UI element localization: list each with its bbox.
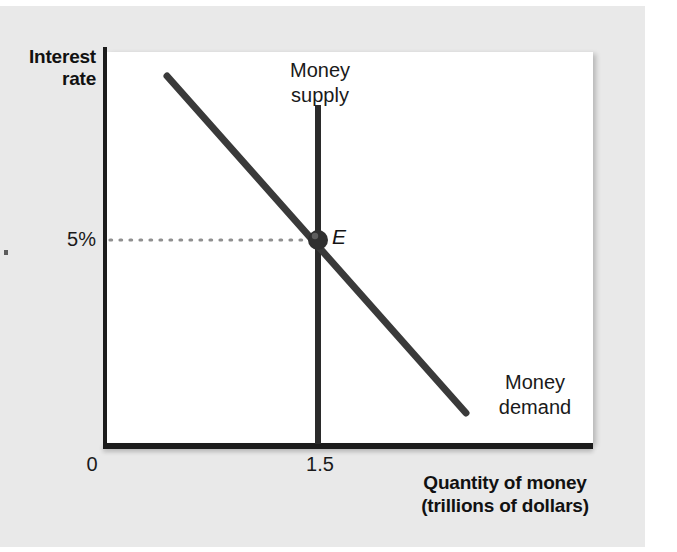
- equilibrium-point-label: E: [332, 225, 346, 249]
- money-demand-label-line1: Money: [470, 370, 600, 395]
- equilibrium-point-highlight: [312, 233, 318, 239]
- money-supply-label-line2: supply: [250, 83, 390, 108]
- money-demand-label: Money demand: [470, 370, 600, 420]
- money-supply-label-line1: Money: [250, 58, 390, 83]
- money-demand-label-line2: demand: [470, 395, 600, 420]
- money-market-chart-figure: Interest rate 5% 0 1.5 Quantity of money…: [0, 0, 677, 552]
- money-supply-label: Money supply: [250, 58, 390, 108]
- equilibrium-point-marker: [308, 230, 328, 250]
